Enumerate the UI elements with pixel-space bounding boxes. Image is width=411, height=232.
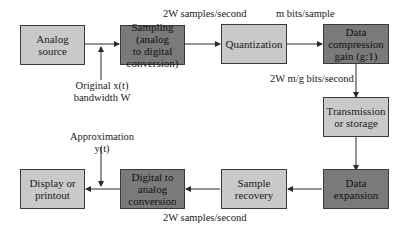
node-sample-recovery: Sample recovery xyxy=(221,169,287,209)
node-label: Display or printout xyxy=(29,177,75,201)
node-analog-source: Analog source xyxy=(20,25,85,65)
node-label: Transmission or storage xyxy=(327,105,386,129)
label-original-line1: Original x(t) xyxy=(70,80,134,92)
node-data-expansion: Data expansion xyxy=(323,169,389,209)
node-display: Display or printout xyxy=(20,169,85,209)
node-label: Quantization xyxy=(226,38,283,50)
label-rate-bottom: 2W samples/second xyxy=(163,212,247,224)
node-data-compression: Data compression gain (g:1) xyxy=(323,24,389,64)
label-approx-line1: Approximation xyxy=(68,131,136,143)
node-quantization: Quantization xyxy=(221,24,287,64)
node-label: Sampling (analog to digital conversion) xyxy=(127,21,179,69)
label-rate-top: 2W samples/second xyxy=(163,8,247,20)
node-transmission: Transmission or storage xyxy=(323,97,389,137)
node-label: Data compression gain (g:1) xyxy=(328,26,384,62)
node-label: Data expansion xyxy=(334,177,379,201)
label-compressed-rate: 2W m/g bits/second xyxy=(270,73,354,85)
label-bits-per-sample: m bits/sample xyxy=(276,8,335,20)
label-approx-line2: y(t) xyxy=(68,143,136,155)
node-sampling: Sampling (analog to digital conversion) xyxy=(120,25,185,65)
node-digital-to-analog: Digital to analog conversion xyxy=(120,169,185,209)
node-label: Digital to analog conversion xyxy=(128,171,176,207)
label-original-line2: bandwidth W xyxy=(70,92,134,104)
node-label: Analog source xyxy=(36,33,68,57)
node-label: Sample recovery xyxy=(235,177,273,201)
